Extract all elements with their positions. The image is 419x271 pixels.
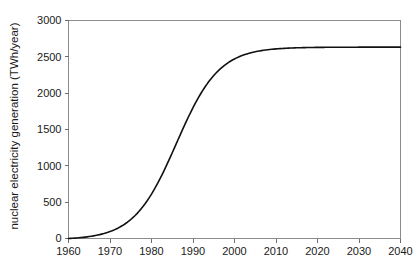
x-tick-label: 1990 bbox=[181, 245, 205, 257]
x-axis-ticks bbox=[69, 239, 401, 243]
x-tick-label: 2030 bbox=[347, 245, 371, 257]
x-tick-label: 2020 bbox=[305, 245, 329, 257]
x-tick-label: 2000 bbox=[222, 245, 246, 257]
y-tick-label: 0 bbox=[55, 232, 61, 244]
y-axis-tick-labels: 050010001500200025003000 bbox=[37, 14, 61, 244]
x-tick-label: 1980 bbox=[139, 245, 163, 257]
y-tick-label: 1000 bbox=[37, 160, 61, 172]
axes-frame bbox=[69, 21, 401, 239]
x-tick-label: 2010 bbox=[264, 245, 288, 257]
y-tick-label: 3000 bbox=[37, 14, 61, 26]
x-axis-tick-labels: 196019701980199020002010202020302040 bbox=[56, 245, 412, 257]
y-axis-title: nuclear electricity generation (TWh/year… bbox=[8, 22, 20, 229]
x-tick-label: 1960 bbox=[56, 245, 80, 257]
y-tick-label: 1500 bbox=[37, 123, 61, 135]
y-tick-label: 2000 bbox=[37, 87, 61, 99]
x-tick-label: 2040 bbox=[388, 245, 412, 257]
data-series-nuclear-generation bbox=[69, 47, 401, 238]
chart-figure: 050010001500200025003000 196019701980199… bbox=[0, 0, 419, 271]
x-tick-label: 1970 bbox=[98, 245, 122, 257]
y-tick-label: 500 bbox=[43, 196, 61, 208]
y-axis-ticks bbox=[65, 21, 69, 239]
line-chart: 050010001500200025003000 196019701980199… bbox=[0, 0, 419, 271]
y-tick-label: 2500 bbox=[37, 51, 61, 63]
